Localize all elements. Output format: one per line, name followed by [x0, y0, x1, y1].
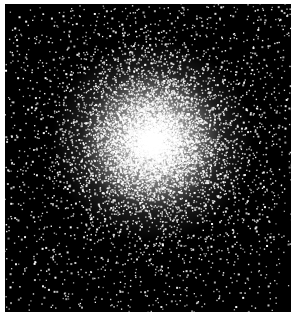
- globular-cluster-image: [5, 4, 291, 312]
- star-field: [5, 4, 291, 312]
